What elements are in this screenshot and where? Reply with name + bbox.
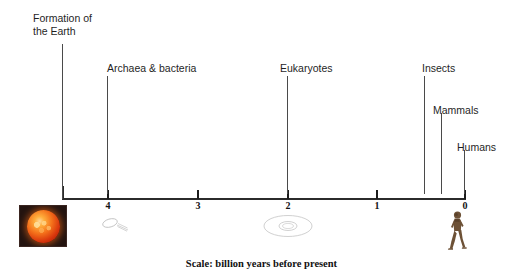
axis-tick-label-3: 3 (196, 200, 201, 211)
timeline-diagram: 4 3 2 1 0 Formation of the Earth Archaea… (0, 0, 523, 276)
event-label-archaea-bacteria: Archaea & bacteria (107, 62, 196, 75)
timeline-axis-line (62, 198, 466, 200)
human-figure (444, 210, 468, 252)
event-label-mammals: Mammals (433, 104, 479, 117)
sun-image (19, 205, 67, 247)
axis-tick-label-4: 4 (106, 200, 111, 211)
event-stem-insects (424, 76, 425, 194)
event-label-insects: Insects (422, 62, 455, 75)
event-stem-eukaryotes (287, 76, 288, 194)
event-stem-mammals (441, 113, 442, 194)
event-label-humans: Humans (457, 141, 496, 154)
microbe-sketch (101, 216, 129, 232)
event-label-line-1: Formation of (33, 12, 92, 25)
event-stem-archaea-bacteria (107, 76, 108, 194)
event-label-eukaryotes: Eukaryotes (280, 62, 333, 75)
event-stem-humans (464, 150, 465, 194)
diagram-caption: Scale: billion years before present (0, 258, 523, 269)
event-stem-formation-of-the-earth (62, 44, 63, 199)
axis-tick-label-2: 2 (286, 200, 291, 211)
axis-tick-1 (376, 190, 378, 199)
event-label-formation-of-the-earth: Formation of the Earth (33, 12, 92, 37)
axis-tick-label-1: 1 (375, 200, 380, 211)
sun-surface-granules (27, 210, 60, 243)
axis-tick-3 (197, 190, 199, 199)
eukaryote-sketch (262, 214, 314, 238)
event-label-line-2: the Earth (33, 25, 92, 38)
